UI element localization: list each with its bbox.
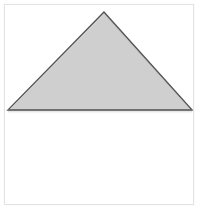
drawing-surface (5, 5, 193, 204)
figure-canvas (0, 0, 200, 219)
triangle-figure-svg (5, 5, 193, 204)
base-lower-highlight (8, 112, 192, 113)
image-border-frame (4, 4, 194, 205)
watermark-text (3, 210, 47, 217)
